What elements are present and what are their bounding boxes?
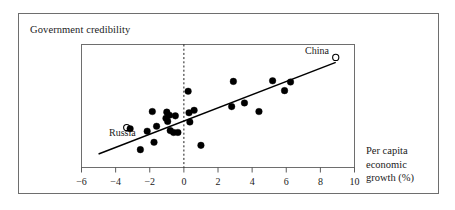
data-point bbox=[175, 129, 182, 136]
x-tick-label: −2 bbox=[144, 176, 155, 187]
data-point bbox=[228, 103, 235, 110]
data-point-china bbox=[333, 54, 339, 60]
x-axis-label-line-1: Per capita bbox=[366, 144, 444, 158]
data-point bbox=[269, 77, 276, 84]
data-point bbox=[187, 119, 194, 126]
data-point bbox=[287, 79, 294, 86]
data-point bbox=[137, 146, 144, 153]
x-axis-label-line-3: growth (%) bbox=[366, 171, 444, 185]
data-point bbox=[144, 128, 151, 135]
annotation-china: China bbox=[305, 45, 329, 56]
data-point bbox=[198, 142, 205, 149]
data-point bbox=[164, 118, 171, 125]
data-point bbox=[191, 107, 198, 114]
x-axis-label: Per capita economic growth (%) bbox=[366, 144, 444, 185]
x-tick-label: 0 bbox=[181, 176, 186, 187]
x-axis-tick-labels: −6−4−20246810 bbox=[76, 176, 359, 187]
figure-container: Government credibility −6−4−20246810 Chi… bbox=[0, 0, 455, 210]
data-point bbox=[256, 108, 263, 115]
x-tick-label: 10 bbox=[350, 176, 360, 187]
data-point bbox=[241, 100, 248, 107]
data-point bbox=[166, 112, 173, 119]
x-tick-label: 8 bbox=[318, 176, 323, 187]
data-point bbox=[172, 113, 179, 120]
x-tick-label: 6 bbox=[284, 176, 289, 187]
data-point bbox=[185, 88, 192, 95]
annotation-russia: Russia bbox=[109, 127, 136, 138]
x-tick-label: −4 bbox=[110, 176, 121, 187]
x-tick-label: 2 bbox=[216, 176, 221, 187]
data-point bbox=[149, 108, 156, 115]
data-point bbox=[151, 139, 158, 146]
x-tick-label: 4 bbox=[250, 176, 255, 187]
plot-frame bbox=[82, 45, 355, 168]
x-axis-ticks bbox=[82, 168, 355, 173]
data-point bbox=[281, 87, 288, 94]
data-point bbox=[153, 123, 160, 130]
x-tick-label: −6 bbox=[76, 176, 87, 187]
data-point bbox=[230, 78, 237, 85]
x-axis-label-line-2: economic bbox=[366, 158, 444, 172]
